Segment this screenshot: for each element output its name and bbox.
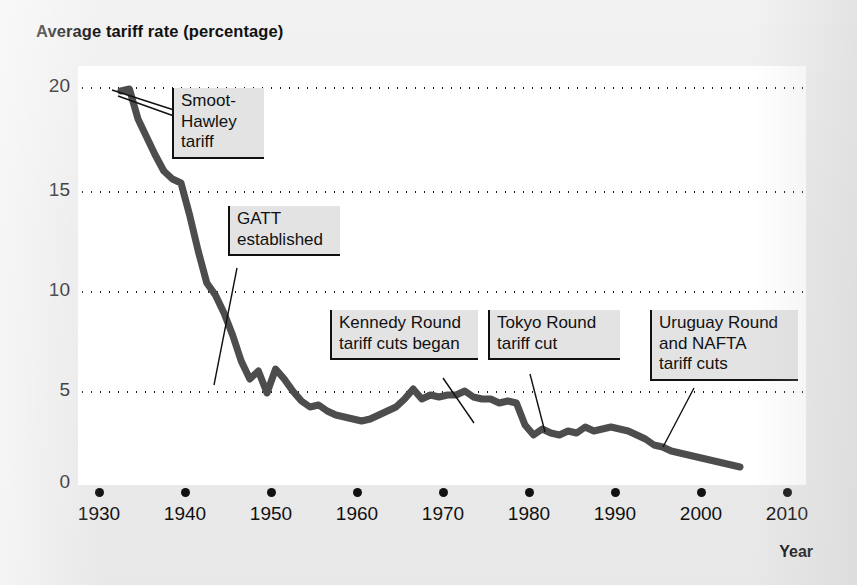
page-title: Average tariff rate (percentage)	[36, 22, 283, 41]
callout-uruguay-line2: and NAFTA	[659, 334, 790, 355]
x-axis: 1930 1940 1950 1960 1970 1980 1990 2000 …	[78, 485, 806, 545]
x-tick-label-1980: 1980	[508, 503, 550, 525]
x-tick-label-1930: 1930	[78, 503, 120, 525]
callout-smoot-hawley: Smoot- Hawley tariff	[172, 88, 264, 159]
callout-tokyo-round: Tokyo Round tariff cut	[488, 310, 620, 360]
y-tick-5: 5	[59, 379, 70, 401]
x-tick-label-2000: 2000	[680, 503, 722, 525]
callout-smoot-hawley-line2: Hawley	[181, 112, 256, 133]
callout-smoot-hawley-line3: tariff	[181, 132, 256, 153]
x-tick-label-1960: 1960	[336, 503, 378, 525]
x-tick-dot-1980	[525, 488, 534, 497]
x-tick-dot-1960	[353, 488, 362, 497]
y-tick-10: 10	[49, 279, 70, 301]
callout-tokyo-line1: Tokyo Round	[497, 313, 612, 334]
gridline-5	[78, 391, 806, 393]
callout-uruguay-line3: tariff cuts	[659, 354, 790, 375]
x-tick-label-1950: 1950	[250, 503, 292, 525]
callout-kennedy-line1: Kennedy Round	[339, 313, 470, 334]
y-axis: 20 15 10 5 0	[24, 66, 70, 485]
x-tick-dot-2000	[697, 488, 706, 497]
callout-gatt-line1: GATT	[237, 209, 332, 230]
x-tick-label-1970: 1970	[422, 503, 464, 525]
x-tick-label-1990: 1990	[594, 503, 636, 525]
y-tick-20: 20	[49, 75, 70, 97]
x-tick-dot-1950	[267, 488, 276, 497]
y-tick-15: 15	[49, 179, 70, 201]
x-tick-dot-1990	[611, 488, 620, 497]
x-axis-title: Year	[779, 543, 813, 561]
callout-uruguay-line1: Uruguay Round	[659, 313, 790, 334]
callout-smoot-hawley-line1: Smoot-	[181, 91, 256, 112]
y-tick-0: 0	[59, 471, 70, 493]
x-tick-dot-1930	[95, 488, 104, 497]
x-tick-label-2010: 2010	[766, 503, 808, 525]
callout-gatt: GATT established	[228, 206, 340, 256]
x-tick-dot-1940	[181, 488, 190, 497]
x-tick-dot-1970	[439, 488, 448, 497]
x-tick-label-1940: 1940	[164, 503, 206, 525]
callout-kennedy-round: Kennedy Round tariff cuts began	[330, 310, 478, 360]
x-tick-dot-2010	[783, 488, 792, 497]
callout-uruguay-nafta: Uruguay Round and NAFTA tariff cuts	[650, 310, 798, 381]
callout-tokyo-line2: tariff cut	[497, 334, 612, 355]
gridline-15	[78, 191, 806, 193]
callout-gatt-line2: established	[237, 230, 332, 251]
gridline-10	[78, 291, 806, 293]
callout-kennedy-line2: tariff cuts began	[339, 334, 470, 355]
